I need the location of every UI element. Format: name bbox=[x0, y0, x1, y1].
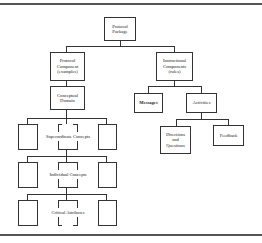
node-directions-questions: DirectionsandQuestions bbox=[160, 126, 191, 154]
label: Messages bbox=[139, 100, 157, 105]
bracket bbox=[58, 225, 62, 226]
connector bbox=[201, 86, 202, 93]
connector bbox=[66, 118, 67, 124]
node-activities: Activities bbox=[186, 93, 217, 113]
label: Instructional bbox=[163, 58, 186, 63]
label: (rules) bbox=[168, 69, 180, 74]
connector bbox=[27, 156, 107, 157]
bracket bbox=[77, 141, 78, 150]
bracket bbox=[58, 187, 78, 188]
label: and bbox=[172, 137, 179, 142]
connector bbox=[27, 194, 107, 195]
connector bbox=[27, 118, 107, 119]
bracket bbox=[77, 124, 78, 132]
label: Questions bbox=[166, 143, 184, 148]
bracket bbox=[58, 124, 59, 132]
placeholder-box bbox=[98, 200, 117, 226]
node-messages: Messages bbox=[134, 93, 163, 113]
connector bbox=[66, 46, 175, 47]
label: Protocol bbox=[60, 58, 76, 63]
label: Domain bbox=[60, 98, 75, 103]
placeholder-box bbox=[18, 200, 38, 226]
label-superordinate-concepts: Superordinate Concepts bbox=[44, 134, 92, 139]
label: Directions bbox=[166, 132, 185, 137]
bracket bbox=[77, 200, 78, 208]
label: Protocol bbox=[112, 24, 128, 29]
connector bbox=[66, 194, 67, 200]
connector bbox=[148, 86, 202, 87]
bottom-border bbox=[0, 234, 262, 236]
node-protocol-package: ProtocolPackage bbox=[104, 17, 136, 41]
bracket bbox=[58, 200, 59, 208]
node-feedback: Feedback bbox=[213, 125, 244, 146]
connector bbox=[66, 110, 67, 118]
bracket bbox=[77, 162, 78, 170]
label: Components bbox=[163, 64, 186, 69]
placeholder-box bbox=[18, 162, 38, 188]
placeholder-box bbox=[98, 124, 117, 150]
label: (examples) bbox=[57, 69, 77, 74]
connector bbox=[66, 156, 67, 162]
bracket bbox=[58, 124, 62, 125]
bracket bbox=[58, 162, 66, 163]
connector bbox=[176, 119, 177, 126]
label: Conceptual bbox=[57, 93, 78, 98]
label-individual-concepts: Individual Concepts bbox=[46, 172, 90, 177]
bracket bbox=[77, 179, 78, 188]
bracket bbox=[58, 162, 59, 170]
label: Package bbox=[112, 29, 127, 34]
node-protocol-component: ProtocolComponent(examples) bbox=[50, 52, 85, 81]
top-border bbox=[0, 3, 262, 5]
label: Feedback bbox=[220, 133, 238, 138]
bracket bbox=[77, 217, 78, 226]
placeholder-box bbox=[18, 124, 38, 150]
label: Activities bbox=[193, 100, 211, 105]
node-instructional-components: InstructionalComponents(rules) bbox=[156, 52, 193, 81]
bracket bbox=[58, 200, 78, 201]
connector bbox=[176, 119, 229, 120]
label: Component bbox=[57, 64, 78, 69]
bracket bbox=[58, 149, 78, 150]
connector bbox=[148, 86, 149, 93]
placeholder-box bbox=[98, 162, 117, 188]
label-critical-attributes: Critical Attributes bbox=[47, 210, 89, 215]
node-conceptual-domain: ConceptualDomain bbox=[50, 86, 85, 110]
